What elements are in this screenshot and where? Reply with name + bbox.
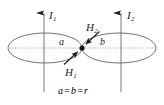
- label-radius-b: b: [100, 37, 105, 47]
- label-field-h2: H2: [86, 22, 97, 33]
- label-current-i2-subscript: 2: [131, 15, 134, 22]
- caption-operator-2: =: [76, 85, 84, 96]
- label-current-i1-subscript: 1: [53, 15, 56, 22]
- label-field-h1-symbol: H: [65, 66, 73, 78]
- field-vector-h1-arrow: [64, 52, 78, 65]
- label-field-h1: H1: [65, 67, 76, 78]
- tangent-point-marker: [79, 45, 84, 50]
- label-radius-a: a: [59, 37, 64, 47]
- caption-term-r: r: [84, 85, 88, 96]
- label-field-h2-symbol: H: [86, 21, 94, 33]
- caption-equation: a=b=r: [58, 85, 88, 96]
- label-field-h1-subscript: 1: [73, 72, 76, 79]
- label-current-i1: I1: [49, 10, 56, 21]
- label-field-h2-subscript: 2: [94, 27, 97, 34]
- physics-figure: I1 I2 H2 H1 a b a=b=r: [0, 0, 164, 105]
- caption-operator-1: =: [63, 85, 71, 96]
- label-current-i2: I2: [127, 10, 134, 21]
